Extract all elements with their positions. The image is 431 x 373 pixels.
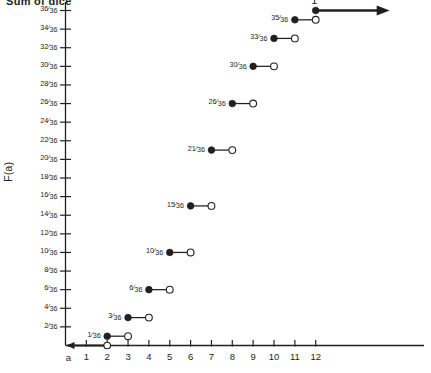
x-tick-label: 9: [251, 351, 256, 362]
svg-text:14⁄36: 14⁄36: [40, 209, 57, 220]
svg-text:34⁄36: 34⁄36: [40, 23, 57, 34]
y-tick-label: 32⁄36: [40, 42, 57, 53]
x-tick-group: 123456789101112: [84, 340, 321, 362]
y-tick-label: 20⁄36: [40, 153, 57, 164]
x-tick-label: 10: [269, 351, 280, 362]
x-tick-label: 6: [188, 351, 193, 362]
y-tick-label: 34⁄36: [40, 23, 57, 34]
open-endpoint: [208, 203, 215, 210]
svg-text:30⁄36: 30⁄36: [40, 60, 57, 71]
step-value-label: 6⁄36: [129, 283, 142, 294]
y-axis-title: F(a): [2, 162, 14, 182]
x-tick-label: 1: [84, 351, 89, 362]
step-value-label: 3⁄36: [108, 311, 121, 322]
y-tick-label: 10⁄36: [40, 246, 57, 257]
svg-text:28⁄36: 28⁄36: [40, 79, 57, 90]
y-tick-label: 18⁄36: [40, 172, 57, 183]
axes-group: [66, 2, 425, 346]
x-tick-label: 4: [146, 351, 151, 362]
y-tick-label: 26⁄36: [40, 97, 57, 108]
open-endpoint: [291, 35, 298, 42]
step-value-label: 15⁄36: [167, 200, 184, 211]
step-value-label: 21⁄36: [188, 144, 205, 155]
svg-text:2⁄36: 2⁄36: [44, 321, 57, 332]
open-endpoint: [250, 100, 257, 107]
y-tick-label: 16⁄36: [40, 190, 57, 201]
svg-text:18⁄36: 18⁄36: [40, 172, 57, 183]
svg-text:8⁄36: 8⁄36: [44, 265, 57, 276]
chart-title: Sum of dice: [6, 0, 72, 7]
y-tick-label: 24⁄36: [40, 116, 57, 127]
svg-text:20⁄36: 20⁄36: [40, 153, 57, 164]
y-tick-label: 8⁄36: [44, 265, 57, 276]
x-tick-label: 2: [105, 351, 110, 362]
x-tick-label: 12: [310, 351, 321, 362]
y-tick-label: 6⁄36: [44, 283, 57, 294]
open-endpoint: [229, 147, 236, 154]
y-tick-label: 22⁄36: [40, 135, 57, 146]
step-value-label: 1⁄36: [87, 330, 100, 341]
y-tick-label: 14⁄36: [40, 209, 57, 220]
cdf-chart: Sum of dice 2⁄364⁄366⁄368⁄3610⁄3612⁄3614…: [0, 0, 431, 373]
y-tick-group: 2⁄364⁄366⁄368⁄3610⁄3612⁄3614⁄3616⁄3618⁄3…: [40, 4, 71, 331]
open-endpoint: [312, 16, 319, 23]
step-value-label: 35⁄36: [271, 13, 288, 24]
closed-endpoint: [125, 314, 132, 321]
step-label-group: 1⁄363⁄366⁄3610⁄3615⁄3621⁄3626⁄3630⁄3633⁄…: [87, 0, 317, 340]
x-tick-label: 3: [125, 351, 130, 362]
step-value-label: 26⁄36: [209, 97, 226, 108]
closed-endpoint: [208, 147, 215, 154]
y-tick-label: 12⁄36: [40, 228, 57, 239]
y-tick-label: 4⁄36: [44, 302, 57, 313]
step-value-label: 1: [311, 0, 317, 6]
terminal-arrowhead: [377, 6, 390, 16]
closed-endpoint: [292, 17, 299, 24]
open-endpoint: [271, 63, 278, 70]
svg-text:26⁄36: 26⁄36: [40, 97, 57, 108]
svg-text:16⁄36: 16⁄36: [40, 190, 57, 201]
open-endpoint: [166, 286, 173, 293]
svg-text:32⁄36: 32⁄36: [40, 42, 57, 53]
y-tick-label: 2⁄36: [44, 321, 57, 332]
closed-endpoint: [250, 63, 257, 70]
svg-text:24⁄36: 24⁄36: [40, 116, 57, 127]
x-axis-origin-label: a: [66, 352, 72, 363]
svg-text:10⁄36: 10⁄36: [40, 246, 57, 257]
open-endpoint: [104, 342, 111, 349]
open-endpoint: [146, 314, 153, 321]
open-endpoint: [125, 333, 132, 340]
svg-text:4⁄36: 4⁄36: [44, 302, 57, 313]
step-value-label: 10⁄36: [146, 246, 163, 257]
x-tick-label: 8: [230, 351, 235, 362]
closed-endpoint: [229, 100, 236, 107]
y-tick-label: 28⁄36: [40, 79, 57, 90]
y-tick-label: 30⁄36: [40, 60, 57, 71]
plot-area: 2⁄364⁄366⁄368⁄3610⁄3612⁄3614⁄3616⁄3618⁄3…: [0, 0, 431, 373]
svg-text:22⁄36: 22⁄36: [40, 135, 57, 146]
closed-endpoint: [166, 249, 173, 256]
step-group: [67, 6, 390, 349]
closed-endpoint: [312, 7, 319, 14]
closed-endpoint: [146, 286, 153, 293]
svg-text:12⁄36: 12⁄36: [40, 228, 57, 239]
closed-endpoint: [104, 333, 111, 340]
closed-endpoint: [187, 203, 194, 210]
x-tick-label: 11: [290, 351, 300, 362]
closed-endpoint: [271, 35, 278, 42]
step-value-label: 30⁄36: [229, 60, 246, 71]
zero-segment-arrowhead: [67, 342, 75, 349]
x-tick-label: 7: [209, 351, 214, 362]
svg-text:6⁄36: 6⁄36: [44, 283, 57, 294]
x-tick-label: 5: [167, 351, 172, 362]
step-value-label: 33⁄36: [250, 32, 267, 43]
open-endpoint: [187, 249, 194, 256]
